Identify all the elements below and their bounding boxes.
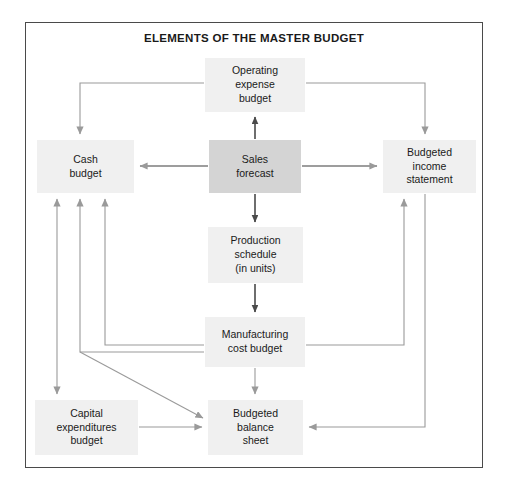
node-label-line: Sales — [209, 153, 301, 167]
node-sales-forecast[interactable]: Sales forecast — [209, 140, 301, 193]
node-label-line: balance — [208, 421, 303, 435]
node-budgeted-balance-sheet[interactable]: Budgeted balance sheet — [208, 400, 303, 455]
node-operating-expense-budget[interactable]: Operating expense budget — [205, 58, 305, 112]
node-label-line: schedule — [208, 248, 303, 262]
node-production-schedule[interactable]: Production schedule (in units) — [208, 227, 303, 283]
node-label-line: income — [383, 160, 476, 174]
node-label-line: statement — [383, 173, 476, 187]
node-label-line: sheet — [208, 434, 303, 448]
node-label-line: expenditures — [35, 421, 138, 435]
node-label-line: budget — [205, 92, 305, 106]
node-label-line: Capital — [35, 407, 138, 421]
node-capital-expenditures-budget[interactable]: Capital expenditures budget — [35, 400, 138, 455]
node-cash-budget[interactable]: Cash budget — [37, 140, 134, 193]
edge-operating-to-cash — [80, 83, 204, 134]
node-label-line: budget — [35, 434, 138, 448]
node-label-line: Budgeted — [208, 407, 303, 421]
edge-manufacturing-to-cash — [105, 199, 204, 345]
node-label-line: Cash — [37, 153, 134, 167]
edge-manufacturing-to-income — [306, 199, 404, 345]
node-label-line: budget — [37, 167, 134, 181]
node-label-line: Manufacturing — [205, 328, 305, 342]
node-label-line: (in units) — [208, 262, 303, 276]
edge-operating-to-income — [306, 83, 425, 134]
node-label-line: Production — [208, 234, 303, 248]
node-label-line: Budgeted — [383, 146, 476, 160]
node-budgeted-income-statement[interactable]: Budgeted income statement — [383, 140, 476, 193]
edge-manufacturing-to-cash-2 — [80, 199, 204, 352]
node-label-line: forecast — [209, 167, 301, 181]
node-label-line: cost budget — [205, 342, 305, 356]
edge-income-to-balance — [309, 194, 425, 427]
node-manufacturing-cost-budget[interactable]: Manufacturing cost budget — [205, 317, 305, 367]
node-label-line: Operating — [205, 64, 305, 78]
diagram-page: ELEMENTS OF THE MASTER BUDGET — [0, 0, 507, 491]
node-label-line: expense — [205, 78, 305, 92]
